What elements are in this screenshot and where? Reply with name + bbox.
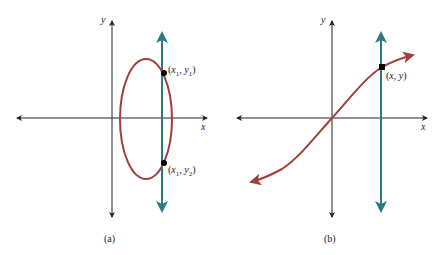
- x-axis-label: x: [201, 121, 205, 132]
- panel-a: [17, 21, 207, 217]
- point-label-x-y: (x, y): [386, 70, 407, 81]
- s-curve: [332, 55, 413, 118]
- y-axis-label: y: [101, 14, 105, 25]
- point-x1-y1: [161, 70, 167, 76]
- caption-b: (b): [324, 233, 336, 244]
- panel-b: [237, 21, 427, 217]
- point-label-x1-y1: (x1, y1): [168, 64, 196, 78]
- point-x-y: [379, 64, 385, 70]
- diagram-canvas: [0, 0, 442, 255]
- s-curve: [251, 118, 332, 182]
- point-label-x1-y2: (x1, y2): [168, 164, 196, 178]
- figure: y x (x1, y1) (x1, y2) (a) y x (x, y) (b): [0, 0, 442, 255]
- x-axis-label: x: [421, 121, 425, 132]
- y-axis-label: y: [321, 14, 325, 25]
- point-x1-y2: [161, 160, 167, 166]
- caption-a: (a): [104, 233, 115, 244]
